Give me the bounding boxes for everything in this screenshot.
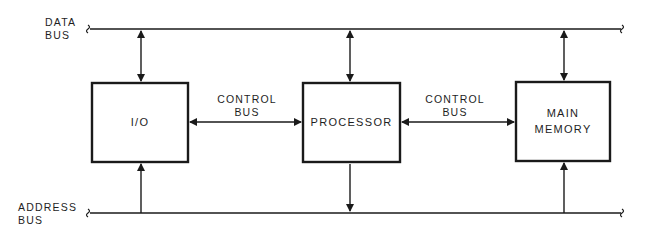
break-icon <box>87 25 90 33</box>
processor-block-label: PROCESSOR <box>303 114 400 130</box>
control-bus-left-line2: BUS <box>212 106 282 119</box>
address-bus-label-line2: BUS <box>18 214 77 227</box>
memory-label-line1: MAIN <box>516 105 610 121</box>
address-bus-label: ADDRESS BUS <box>18 201 77 227</box>
control-bus-left-label: CONTROL BUS <box>212 93 282 119</box>
data-bus-label: DATA BUS <box>45 16 76 42</box>
io-block-label: I/O <box>92 114 188 130</box>
control-bus-right-line1: CONTROL <box>420 93 490 106</box>
address-bus-label-line1: ADDRESS <box>18 201 77 214</box>
break-icon <box>87 209 90 217</box>
control-bus-right-line2: BUS <box>420 106 490 119</box>
data-bus-label-line1: DATA <box>45 16 76 29</box>
memory-block-label: MAIN MEMORY <box>516 105 610 137</box>
memory-label-line2: MEMORY <box>516 121 610 137</box>
data-bus-label-line2: BUS <box>45 29 76 42</box>
control-bus-right-label: CONTROL BUS <box>420 93 490 119</box>
address-bus-line <box>87 209 624 217</box>
control-bus-left-line1: CONTROL <box>212 93 282 106</box>
data-bus-line <box>87 25 624 33</box>
